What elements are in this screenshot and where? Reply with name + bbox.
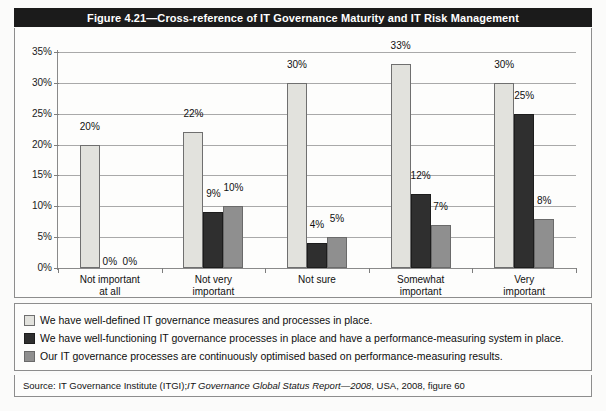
y-axis-tick-label: 10% xyxy=(18,200,52,211)
y-axis-tick xyxy=(54,206,59,207)
x-axis-category-label: Somewhat important xyxy=(397,274,444,297)
legend-swatch-icon xyxy=(24,333,35,344)
bar: 30% xyxy=(287,83,307,268)
x-axis-tick xyxy=(369,268,370,273)
legend-item: We have well-functioning IT governance p… xyxy=(24,329,591,347)
x-axis-line xyxy=(57,268,577,269)
bar: 22% xyxy=(183,132,203,268)
y-axis-tick xyxy=(54,83,59,84)
x-axis-category-label: Not very important xyxy=(193,274,235,297)
figure-title-bar: Figure 4.21—Cross-reference of IT Govern… xyxy=(14,8,592,27)
x-axis-tick xyxy=(58,268,59,273)
y-axis-tick-label: 35% xyxy=(18,46,52,57)
bar-group: 20%0%0% xyxy=(80,52,140,268)
y-axis-tick-label: 30% xyxy=(18,77,52,88)
bar: 12% xyxy=(411,194,431,268)
bar-value-label: 5% xyxy=(330,213,344,224)
chart-legend: We have well-defined IT governance measu… xyxy=(14,303,592,371)
bar: 8% xyxy=(534,219,554,268)
bar-group: 22%9%10% xyxy=(183,52,243,268)
bar: 10% xyxy=(223,206,243,268)
bar: 5% xyxy=(327,237,347,268)
source-prefix: Source: IT Governance Institute (ITGI); xyxy=(23,380,187,391)
legend-item-label: Our IT governance processes are continuo… xyxy=(40,350,503,362)
y-axis-tick-label: 0% xyxy=(18,262,52,273)
bar-value-label: 33% xyxy=(391,40,411,51)
legend-item: We have well-defined IT governance measu… xyxy=(24,311,591,329)
legend-swatch-icon xyxy=(24,351,35,362)
legend-item-label: We have well-functioning IT governance p… xyxy=(40,332,564,344)
bar-group: 30%4%5% xyxy=(287,52,347,268)
y-axis-tick xyxy=(54,237,59,238)
source-report-title: IT Governance Global Status Report—2008 xyxy=(187,380,371,391)
x-axis-category-label: Very important xyxy=(498,274,550,297)
legend-item: Our IT governance processes are continuo… xyxy=(24,347,591,365)
y-axis-tick xyxy=(54,175,59,176)
bar: 30% xyxy=(494,83,514,268)
bar-value-label: 8% xyxy=(537,195,551,206)
page-title: Figure 4.21—Cross-reference of IT Govern… xyxy=(87,12,519,24)
chart-panel: 0%5%10%15%20%25%30%35% 20%0%0%Not import… xyxy=(14,28,592,298)
figure-container: Figure 4.21—Cross-reference of IT Govern… xyxy=(0,0,606,411)
bar-value-label: 4% xyxy=(310,219,324,230)
x-axis-category-label: Not sure xyxy=(298,274,336,286)
y-axis-tick-label: 5% xyxy=(18,231,52,242)
plot-area: 20%0%0%Not important at all22%9%10%Not v… xyxy=(58,52,576,268)
bar-value-label: 7% xyxy=(433,201,447,212)
y-axis-tick-label: 25% xyxy=(18,108,52,119)
y-axis-tick xyxy=(54,145,59,146)
source-note: Source: IT Governance Institute (ITGI); … xyxy=(14,375,592,397)
y-axis-tick xyxy=(54,52,59,53)
x-axis-tick xyxy=(472,268,473,273)
x-axis-category-label: Not important at all xyxy=(80,274,140,297)
x-axis-tick xyxy=(576,268,577,273)
bar-value-label: 12% xyxy=(411,170,431,181)
bar-value-label: 0% xyxy=(123,256,137,267)
x-axis-tick xyxy=(162,268,163,273)
legend-item-label: We have well-defined IT governance measu… xyxy=(40,314,372,326)
bar-value-label: 0% xyxy=(103,256,117,267)
bar-group: 30%25%8% xyxy=(494,52,554,268)
bar: 25% xyxy=(514,114,534,268)
y-axis-tick-label: 20% xyxy=(18,139,52,150)
bar-value-label: 9% xyxy=(206,188,220,199)
y-axis-tick xyxy=(54,114,59,115)
bar: 4% xyxy=(307,243,327,268)
y-axis-tick-labels: 0%5%10%15%20%25%30%35% xyxy=(16,52,52,268)
bar: 9% xyxy=(203,212,223,268)
y-axis-tick-label: 15% xyxy=(18,169,52,180)
bar-value-label: 25% xyxy=(514,90,534,101)
bar-value-label: 10% xyxy=(223,182,243,193)
source-suffix: , USA, 2008, figure 60 xyxy=(371,380,464,391)
x-axis-tick xyxy=(265,268,266,273)
legend-swatch-icon xyxy=(24,315,35,326)
bar: 33% xyxy=(391,64,411,268)
bar-group: 33%12%7% xyxy=(391,52,451,268)
bar: 7% xyxy=(431,225,451,268)
bar-value-label: 30% xyxy=(287,59,307,70)
bar: 20% xyxy=(80,145,100,268)
bar-value-label: 30% xyxy=(494,59,514,70)
bar-value-label: 20% xyxy=(80,121,100,132)
bar-value-label: 22% xyxy=(183,108,203,119)
